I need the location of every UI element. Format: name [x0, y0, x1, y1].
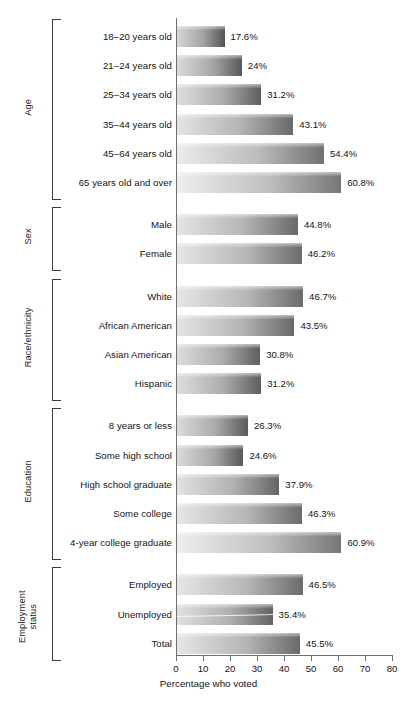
value-label: 26.3% — [254, 415, 281, 436]
bar — [177, 315, 294, 336]
category-label: 65 years old and over — [42, 172, 172, 193]
bar-row: Some high school24.6% — [0, 445, 417, 466]
group-bracket-race-ethnicity — [52, 279, 61, 402]
x-tick-0 — [176, 656, 177, 661]
bar-row: African American43.5% — [0, 315, 417, 336]
bar — [177, 574, 303, 595]
bar — [177, 26, 225, 47]
bar — [177, 114, 293, 135]
bar-row: 4-year college graduate60.9% — [0, 532, 417, 553]
category-label: Female — [42, 243, 172, 264]
category-label: 4-year college graduate — [42, 532, 172, 553]
category-label: Male — [42, 214, 172, 235]
category-label: White — [42, 286, 172, 307]
bar-row: 21–24 years old24% — [0, 55, 417, 76]
category-label: 21–24 years old — [42, 55, 172, 76]
bar — [177, 474, 279, 495]
x-tick-label-40: 40 — [272, 663, 296, 674]
bar-row: 25–34 years old31.2% — [0, 84, 417, 105]
x-tick-label-50: 50 — [299, 663, 323, 674]
x-tick-60 — [338, 656, 339, 661]
category-label: Total — [42, 633, 172, 654]
x-axis-title: Percentage who voted — [0, 678, 417, 689]
category-label: 35–44 years old — [42, 114, 172, 135]
value-label: 46.7% — [309, 286, 336, 307]
group-label-age: Age — [23, 42, 34, 172]
bar-row: Hispanic31.2% — [0, 373, 417, 394]
group-label-line: status — [28, 552, 39, 682]
x-tick-label-80: 80 — [380, 663, 404, 674]
value-label: 46.5% — [309, 574, 336, 595]
group-bracket-education — [52, 408, 61, 560]
value-label: 31.2% — [267, 373, 294, 394]
value-label: 46.3% — [308, 503, 335, 524]
category-label: High school graduate — [42, 474, 172, 495]
bar-row: Total45.5% — [0, 633, 417, 654]
group-label-race-ethnicity: Race/ethnicity — [23, 272, 34, 402]
category-label: Unemployed — [42, 604, 172, 625]
bar — [177, 84, 261, 105]
value-label: 54.4% — [330, 143, 357, 164]
bar — [177, 214, 298, 235]
x-tick-label-0: 0 — [164, 663, 188, 674]
x-tick-label-30: 30 — [245, 663, 269, 674]
x-tick-40 — [284, 656, 285, 661]
value-label: 60.8% — [347, 172, 374, 193]
x-tick-30 — [257, 656, 258, 661]
bar-row: Male44.8% — [0, 214, 417, 235]
value-label: 24.6% — [249, 445, 276, 466]
bar — [177, 532, 341, 553]
bar-row: High school graduate37.9% — [0, 474, 417, 495]
bar-row: Female46.2% — [0, 243, 417, 264]
x-tick-label-10: 10 — [191, 663, 215, 674]
bar — [177, 172, 341, 193]
bar — [177, 373, 261, 394]
value-label: 31.2% — [267, 84, 294, 105]
x-tick-label-20: 20 — [218, 663, 242, 674]
x-tick-20 — [230, 656, 231, 661]
group-bracket-sex — [52, 207, 61, 271]
chart-figure: 01020304050607080 18–20 years old17.6%21… — [0, 0, 417, 722]
x-tick-10 — [203, 656, 204, 661]
bar — [177, 344, 260, 365]
category-label: Hispanic — [42, 373, 172, 394]
bar — [177, 243, 302, 264]
category-label: African American — [42, 315, 172, 336]
category-label: 25–34 years old — [42, 84, 172, 105]
bar-row: 8 years or less26.3% — [0, 415, 417, 436]
category-label: 45–64 years old — [42, 143, 172, 164]
bar — [177, 604, 273, 625]
value-label: 43.1% — [299, 114, 326, 135]
category-label: Some high school — [42, 445, 172, 466]
bar-row: 35–44 years old43.1% — [0, 114, 417, 135]
bar — [177, 286, 303, 307]
bar-row: Unemployed35.4% — [0, 604, 417, 625]
bar-row: Some college46.3% — [0, 503, 417, 524]
bar-row: Employed46.5% — [0, 574, 417, 595]
bar — [177, 415, 248, 436]
group-label-education: Education — [23, 417, 34, 547]
bar-row: 45–64 years old54.4% — [0, 143, 417, 164]
group-label-line: Employment — [17, 552, 28, 682]
value-label: 30.8% — [266, 344, 293, 365]
group-bracket-employment-status — [52, 567, 61, 660]
bar-row: 18–20 years old17.6% — [0, 26, 417, 47]
x-tick-70 — [365, 656, 366, 661]
group-bracket-age — [52, 19, 61, 200]
value-label: 60.9% — [347, 532, 374, 553]
value-label: 44.8% — [304, 214, 331, 235]
category-label: Employed — [42, 574, 172, 595]
bar-row: White46.7% — [0, 286, 417, 307]
value-label: 35.4% — [279, 604, 306, 625]
bar — [177, 445, 243, 466]
bar — [177, 55, 242, 76]
x-tick-50 — [311, 656, 312, 661]
bar-row: Asian American30.8% — [0, 344, 417, 365]
value-label: 46.2% — [308, 243, 335, 264]
category-label: 18–20 years old — [42, 26, 172, 47]
category-label: 8 years or less — [42, 415, 172, 436]
value-label: 17.6% — [231, 26, 258, 47]
value-label: 45.5% — [306, 633, 333, 654]
group-label-employment-status: Employmentstatus — [17, 552, 38, 682]
bar — [177, 503, 302, 524]
